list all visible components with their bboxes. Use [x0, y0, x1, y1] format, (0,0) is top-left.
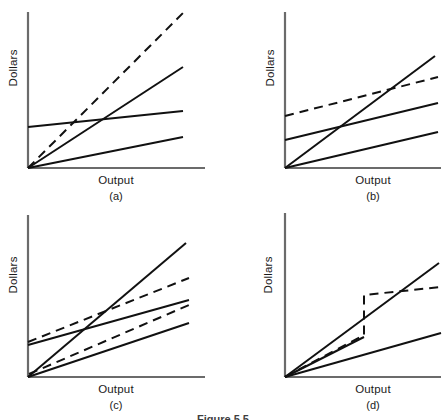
series-line-flat-solid-with-intercept-a: [28, 111, 183, 127]
x-axis-label-d: Output: [323, 383, 423, 395]
series-line-steep-solid-total-d: [285, 263, 439, 377]
chart-panel-c: Dollars Output (c): [0, 205, 223, 410]
series-line-mid-solid-with-intercept-c: [28, 300, 189, 345]
chart-panel-d: Dollars Output (d): [223, 205, 446, 410]
figure-caption: Figure 5.5: [0, 408, 446, 420]
x-axis-label-a: Output: [66, 174, 166, 186]
series-line-steep-dashed-total-a: [28, 13, 183, 168]
series-line-solid-shallow-with-intercept-b: [285, 103, 438, 140]
chart-panel-a: Dollars Output (a): [0, 0, 223, 205]
x-axis-label-c: Output: [66, 383, 166, 395]
series-line-mid-solid-kinked-d: [285, 337, 364, 377]
series-line-lower-dashed-from-origin-c: [29, 305, 189, 374]
y-axis-label-d: Dollars: [242, 269, 294, 281]
y-axis-label-a: Dollars: [0, 62, 39, 74]
y-axis-label-c: Dollars: [0, 269, 39, 281]
series-line-step-dashed-total-d: [285, 287, 441, 377]
series-line-steep-solid-from-origin-c: [28, 243, 186, 377]
panel-tag-b: (b): [323, 190, 423, 202]
series-line-flat-solid-from-origin-d: [285, 333, 441, 377]
figure-container: Dollars Output (a) Dollars Output (b): [0, 0, 446, 420]
y-axis-label-b: Dollars: [244, 62, 296, 74]
chart-plot-d: [223, 205, 446, 410]
x-axis-label-b: Output: [323, 174, 423, 186]
chart-panel-b: Dollars Output (b): [223, 0, 446, 205]
series-line-lower-solid-from-origin-c: [28, 323, 189, 377]
chart-plot-c: [0, 205, 223, 410]
panel-tag-a: (a): [66, 190, 166, 202]
